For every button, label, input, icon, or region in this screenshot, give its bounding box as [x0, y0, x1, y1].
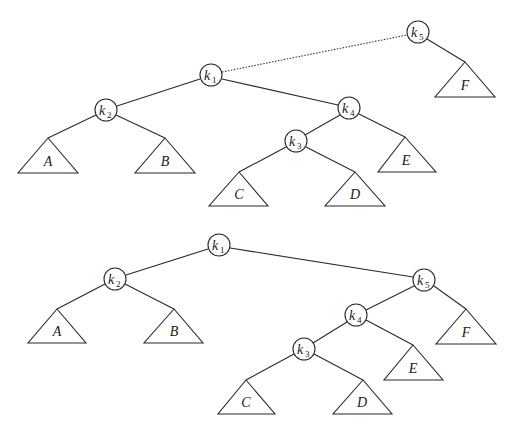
- node-key-subscript: 5: [425, 280, 430, 290]
- top-node-k3: k 3: [285, 130, 307, 152]
- bottom-subtree-C: C: [218, 380, 275, 414]
- bottom-edge-k5-F: [434, 286, 466, 309]
- top-edge-k1-k2: [117, 79, 200, 106]
- subtree-label: E: [408, 361, 418, 376]
- bottom-edge-k1-k2: [126, 249, 208, 275]
- bottom-node-k2: k 2: [104, 268, 126, 290]
- node-key-label: k: [204, 68, 211, 83]
- bottom-subtree-F: F: [436, 309, 496, 344]
- node-key-label: k: [342, 101, 349, 116]
- top-node-k2: k 2: [95, 99, 117, 121]
- node-key-label: k: [411, 25, 418, 40]
- node-key-subscript: 3: [297, 141, 302, 151]
- top-edge-k3-C: [239, 147, 286, 172]
- bottom-edge-k3-D: [314, 354, 363, 380]
- node-key-subscript: 4: [350, 108, 355, 118]
- node-key-subscript: 4: [357, 315, 362, 325]
- node-key-subscript: 1: [212, 75, 217, 85]
- tree-rotation-diagram: A B C D E F k 5 k 1: [0, 0, 518, 435]
- node-key-subscript: 1: [220, 245, 225, 255]
- subtree-label: F: [461, 325, 471, 340]
- node-key-label: k: [99, 103, 106, 118]
- subtree-label: D: [356, 395, 367, 410]
- subtree-label: B: [161, 154, 170, 169]
- top-node-k1: k 1: [200, 64, 222, 86]
- bottom-subtree-D: D: [333, 380, 392, 414]
- subtree-label: F: [460, 78, 470, 93]
- top-edge-k2-B: [116, 115, 165, 138]
- top-edge-k3-D: [306, 147, 355, 172]
- node-key-label: k: [212, 238, 219, 253]
- top-edge-k5-F: [427, 39, 465, 62]
- bottom-edge-k5-k4: [366, 286, 414, 310]
- node-key-label: k: [297, 342, 304, 357]
- node-key-subscript: 3: [305, 349, 310, 359]
- subtree-label: C: [234, 187, 244, 202]
- bottom-subtree-B: B: [144, 309, 203, 343]
- bottom-tree: A B C D E F k 1 k 2: [28, 234, 496, 414]
- node-key-subscript: 2: [107, 110, 112, 120]
- subtree-label: B: [170, 324, 179, 339]
- bottom-node-k4: k 4: [345, 304, 367, 326]
- top-subtree-D: D: [325, 172, 385, 206]
- bottom-subtree-A: A: [28, 309, 86, 343]
- node-key-label: k: [289, 134, 296, 149]
- top-subtree-E: E: [378, 137, 436, 172]
- top-edge-k4-k3: [305, 115, 340, 135]
- top-subtree-C: C: [209, 172, 268, 206]
- bottom-node-k3: k 3: [293, 338, 315, 360]
- bottom-edge-k3-C: [246, 354, 294, 380]
- subtree-label: E: [401, 153, 411, 168]
- bottom-node-k1: k 1: [208, 234, 230, 256]
- top-node-k5: k 5: [407, 21, 429, 43]
- subtree-label: A: [43, 154, 53, 169]
- node-key-label: k: [108, 272, 115, 287]
- top-subtree-F: F: [435, 62, 495, 97]
- subtree-label: C: [241, 395, 251, 410]
- bottom-edge-k4-k3: [313, 322, 347, 343]
- node-key-label: k: [417, 273, 424, 288]
- top-node-k4: k 4: [338, 97, 360, 119]
- node-key-subscript: 5: [419, 32, 424, 42]
- node-key-subscript: 2: [116, 279, 121, 289]
- top-subtree-A: A: [18, 138, 78, 173]
- subtree-label: A: [52, 324, 62, 339]
- bottom-subtree-E: E: [384, 345, 443, 380]
- top-tree: A B C D E F k 5 k 1: [18, 21, 495, 206]
- bottom-edge-k2-A: [57, 284, 105, 309]
- top-edge-k2-A: [48, 115, 96, 138]
- subtree-label: D: [349, 187, 360, 202]
- bottom-edge-k2-B: [125, 284, 174, 309]
- top-edge-k1-k4: [222, 79, 338, 105]
- bottom-edge-k4-E: [366, 320, 413, 345]
- bottom-edge-k1-k5: [230, 248, 413, 277]
- bottom-node-k5: k 5: [413, 269, 435, 291]
- top-edge-k4-E: [359, 114, 405, 137]
- node-key-label: k: [349, 308, 356, 323]
- top-subtree-B: B: [135, 138, 195, 173]
- top-edge-k1-k5-dotted: [222, 35, 407, 72]
